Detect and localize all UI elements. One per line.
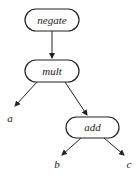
node-mult-label: mult [42, 65, 63, 77]
edge-add-c [104, 138, 124, 155]
leaf-a-label: a [7, 112, 13, 124]
node-add: add [66, 117, 119, 138]
edge-mult-a [15, 82, 37, 106]
leaf-b-label: b [54, 158, 60, 170]
node-negate: negate [25, 9, 79, 31]
leaf-c-label: c [127, 158, 132, 170]
edge-mult-add [65, 82, 87, 115]
node-mult: mult [25, 60, 79, 82]
expression-tree-diagram: negate mult add a b c [0, 0, 137, 178]
node-add-label: add [84, 121, 101, 133]
edge-add-b [62, 138, 81, 155]
node-negate-label: negate [37, 14, 66, 26]
